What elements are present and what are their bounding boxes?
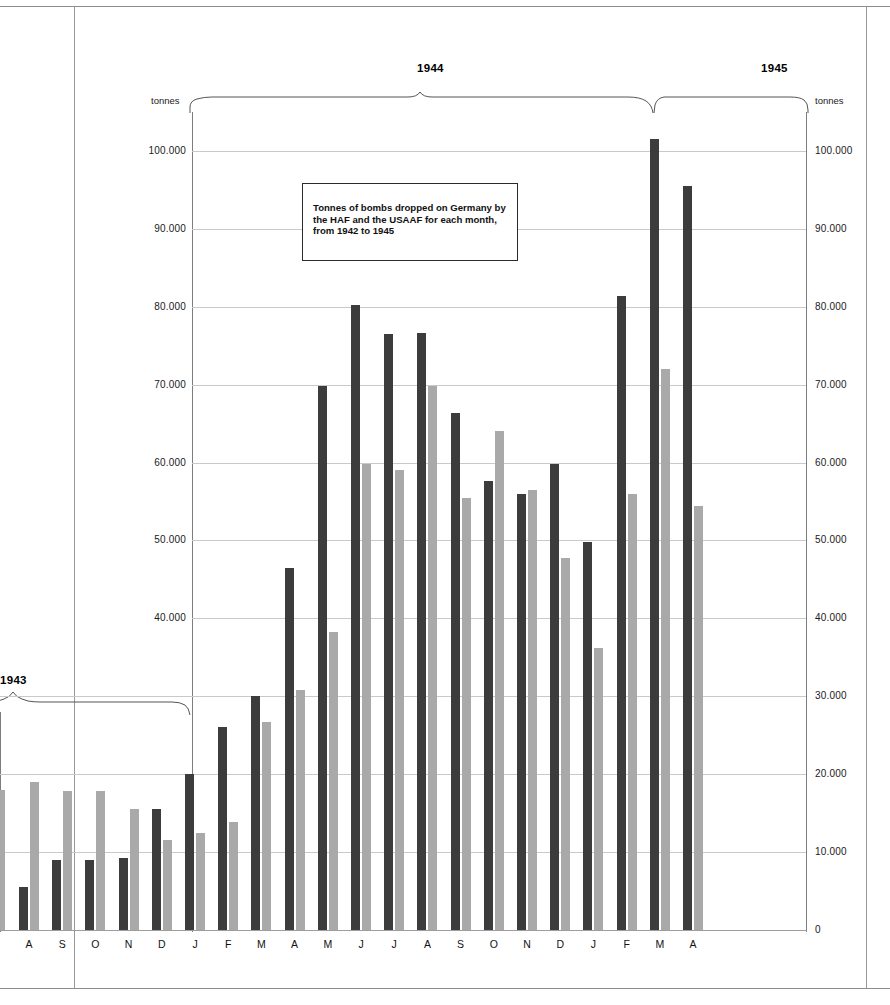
bar-usaaf — [528, 490, 537, 930]
y-tick-label-right: 50.000 — [815, 534, 847, 545]
bar-usaaf — [229, 822, 238, 930]
y-tick-label-right: 0 — [815, 924, 821, 935]
y-tick-label-right: 90.000 — [815, 223, 847, 234]
page-frame-bottom — [0, 988, 890, 989]
month-label: M — [317, 938, 339, 950]
y-tick-label-right: 80.000 — [815, 301, 847, 312]
page-frame-right — [866, 6, 867, 989]
month-label: D — [151, 938, 173, 950]
bar-raf — [152, 809, 161, 930]
month-label: D — [549, 938, 571, 950]
bar-usaaf — [594, 648, 603, 930]
month-label: J — [383, 938, 405, 950]
month-label: O — [483, 938, 505, 950]
bar-raf — [550, 464, 559, 930]
bar-usaaf — [30, 782, 39, 930]
y-tick-label-right: 60.000 — [815, 457, 847, 468]
y-tick-label-right: 20.000 — [815, 768, 847, 779]
bar-raf — [218, 727, 227, 930]
bar-raf — [185, 774, 194, 930]
bar-raf — [119, 858, 128, 930]
bar-raf — [384, 334, 393, 930]
month-label: A — [284, 938, 306, 950]
y-tick-label-right: 30.000 — [815, 690, 847, 701]
bar-usaaf — [362, 464, 371, 930]
bar-usaaf — [262, 722, 271, 930]
bar-usaaf — [395, 470, 404, 930]
bar-usaaf — [196, 833, 205, 930]
bar-raf — [683, 186, 692, 930]
bar-usaaf — [63, 791, 72, 930]
y-tick-label-right: 10.000 — [815, 846, 847, 857]
month-label: S — [450, 938, 472, 950]
month-label: O — [84, 938, 106, 950]
month-label: A — [682, 938, 704, 950]
month-label: M — [250, 938, 272, 950]
y-tick-label-right: 100.000 — [815, 145, 853, 156]
bar-raf — [583, 542, 592, 930]
bar-usaaf — [96, 791, 105, 930]
month-label: A — [416, 938, 438, 950]
month-label: J — [350, 938, 372, 950]
month-label: F — [616, 938, 638, 950]
bar-usaaf — [462, 498, 471, 930]
bar-raf — [417, 333, 426, 930]
month-label: F — [217, 938, 239, 950]
bar-raf — [451, 413, 460, 930]
y-tick-label-right: 70.000 — [815, 379, 847, 390]
unit-label-right: tonnes — [815, 95, 844, 106]
month-label: S — [51, 938, 73, 950]
bar-usaaf — [495, 431, 504, 930]
year-label-1944: 1944 — [417, 62, 444, 74]
bar-usaaf — [163, 840, 172, 930]
bar-usaaf — [130, 809, 139, 930]
bar-usaaf — [628, 494, 637, 930]
bar-raf — [52, 860, 61, 930]
month-label: J — [582, 938, 604, 950]
bar-usaaf-partial — [0, 790, 5, 930]
caption-text: Tonnes of bombs dropped on Germany by th… — [313, 202, 513, 237]
caption-box: Tonnes of bombs dropped on Germany by th… — [302, 183, 518, 261]
bar-raf — [351, 305, 360, 930]
month-label: M — [649, 938, 671, 950]
bar-usaaf — [694, 506, 703, 930]
month-label: J — [184, 938, 206, 950]
bar-raf — [318, 386, 327, 930]
bar-raf — [85, 860, 94, 930]
bar-raf — [251, 696, 260, 930]
chart-page: 1943 1944 1945 tonnes tonnes 100.000100.… — [0, 0, 890, 1005]
bar-usaaf — [428, 386, 437, 930]
bar-usaaf — [661, 369, 670, 930]
month-label: N — [516, 938, 538, 950]
y-tick-label-right: 40.000 — [815, 612, 847, 623]
page-frame-top — [0, 6, 890, 7]
bar-raf — [285, 568, 294, 930]
bar-usaaf — [561, 558, 570, 930]
bar-raf — [484, 481, 493, 931]
year-label-1945: 1945 — [761, 62, 788, 74]
bar-raf — [19, 887, 28, 930]
bar-usaaf — [296, 690, 305, 930]
bar-raf — [617, 296, 626, 930]
bar-raf — [517, 494, 526, 930]
bar-raf — [650, 139, 659, 930]
bar-usaaf — [329, 632, 338, 930]
month-label: N — [118, 938, 140, 950]
month-label: A — [18, 938, 40, 950]
